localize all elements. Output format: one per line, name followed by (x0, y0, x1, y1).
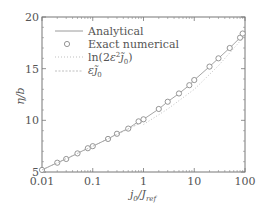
y-tick-label: 15 (25, 63, 39, 76)
series-layer (39, 31, 245, 173)
data-point-marker (156, 106, 161, 111)
series-line (42, 32, 245, 170)
data-point-marker (105, 136, 110, 141)
legend-label-exact: Exact numerical (88, 38, 179, 51)
y-tick-label: 20 (25, 11, 39, 24)
legend-label-analytical: Analytical (87, 25, 144, 38)
data-point-marker (39, 167, 44, 172)
data-point-marker (227, 45, 232, 50)
data-point-marker (64, 156, 69, 161)
data-point-marker (240, 31, 245, 36)
x-tick-label: 10 (187, 175, 201, 188)
x-tick-label: 1 (140, 175, 147, 188)
x-tick-label: 100 (235, 175, 256, 188)
data-point-marker (192, 77, 197, 82)
data-point-marker (55, 160, 60, 165)
legend-label-eps: εj̃0 (88, 64, 102, 79)
y-tick-label: 10 (25, 114, 39, 127)
legend-swatch-exact (64, 41, 69, 46)
y-tick-label: 5 (32, 166, 39, 179)
x-tick-label: 0.1 (84, 175, 102, 188)
data-point-marker (216, 56, 221, 61)
data-point-marker (187, 83, 192, 88)
data-point-marker (207, 64, 212, 69)
legend: Analytical Exact numerical ln(2ε2j̃0) εj… (55, 25, 179, 79)
data-point-marker (141, 117, 146, 122)
data-point-marker (165, 99, 170, 104)
data-point-marker (176, 91, 181, 96)
x-axis-label: j0/Jref (127, 188, 158, 203)
y-axis-label: η/b (14, 87, 27, 104)
chart: 0.010.1110100 5101520 Analytical Exact n… (0, 0, 266, 212)
